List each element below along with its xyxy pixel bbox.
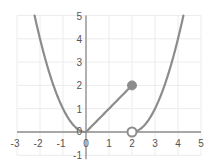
y-tick-label: 2	[76, 80, 82, 91]
y-tick-label: 5	[76, 11, 82, 22]
x-tick-label: 2	[129, 138, 135, 149]
x-tick-label: 5	[198, 138, 204, 149]
x-tick-label: 0	[83, 138, 89, 149]
x-tick-label: 4	[175, 138, 181, 149]
x-tick-label: -3	[11, 138, 20, 149]
x-tick-label: -1	[57, 138, 66, 149]
y-tick-label: 0	[76, 126, 82, 137]
y-tick-label: -1	[73, 150, 82, 161]
x-tick-label: 1	[106, 138, 112, 149]
x-tick-label: 3	[152, 138, 158, 149]
y-tick-label: 3	[76, 57, 82, 68]
filled-point-marker	[128, 81, 137, 90]
y-tick-label: 1	[76, 104, 82, 115]
open-point-marker	[128, 128, 137, 137]
y-tick-label: 4	[76, 34, 82, 45]
x-tick-label: -2	[34, 138, 43, 149]
gridlines	[17, 16, 201, 156]
curve-right-parabola	[132, 16, 183, 133]
piecewise-function-chart: -3-2-1012345 -1012345	[0, 0, 212, 168]
x-tick-labels: -3-2-1012345	[11, 138, 205, 149]
